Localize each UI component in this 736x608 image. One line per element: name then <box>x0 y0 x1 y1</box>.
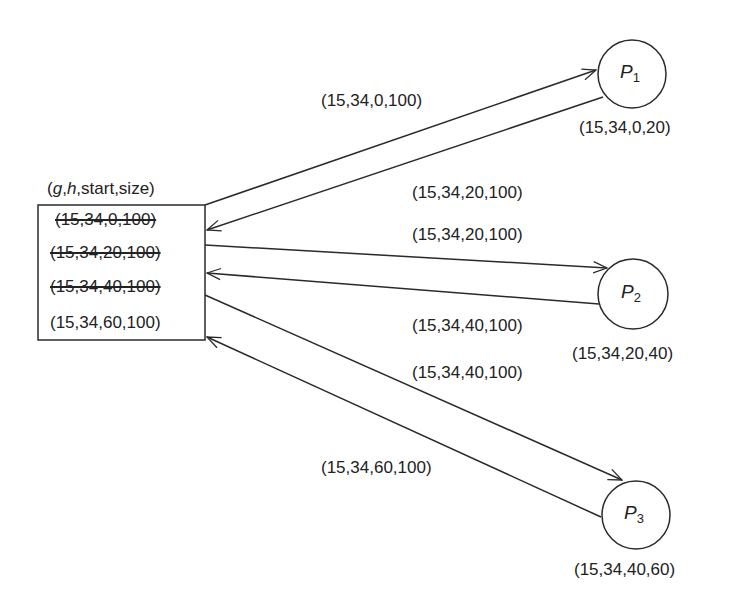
header-rest: ,start,size) <box>76 179 154 198</box>
message-label: (15,34,0,100) <box>321 91 422 111</box>
table-row: (15,34,40,100) <box>50 277 161 297</box>
message-label: (15,34,20,100) <box>412 225 523 245</box>
arrow-p1-to-table <box>207 97 603 230</box>
p1-sub: 1 <box>633 70 640 85</box>
arrow-p2-to-table <box>207 273 599 304</box>
process-p1-state: (15,34,0,20) <box>579 118 671 138</box>
process-p1-label: P1 <box>620 61 640 85</box>
table-row: (15,34,60,100) <box>50 313 161 333</box>
p2-name: P <box>621 281 634 302</box>
p2-sub: 2 <box>634 290 641 305</box>
header-g: g <box>53 179 62 198</box>
table-header: (g,h,start,size) <box>47 179 155 199</box>
table-row: (15,34,20,100) <box>50 243 161 263</box>
process-p3-label: P3 <box>624 502 644 526</box>
message-label: (15,34,40,100) <box>412 316 523 336</box>
process-p2-state: (15,34,20,40) <box>572 344 673 364</box>
p3-name: P <box>624 502 637 523</box>
arrow-table-to-p2 <box>205 245 607 268</box>
header-h: h <box>67 179 76 198</box>
process-p2-label: P2 <box>621 281 641 305</box>
p3-sub: 3 <box>637 511 644 526</box>
message-label: (15,34,40,100) <box>412 363 523 383</box>
arrow-p3-to-table <box>207 337 601 517</box>
process-p3-state: (15,34,40,60) <box>574 560 675 580</box>
message-label: (15,34,20,100) <box>412 183 523 203</box>
message-label: (15,34,60,100) <box>321 458 432 478</box>
p1-name: P <box>620 61 633 82</box>
table-row: (15,34,0,100) <box>55 210 156 230</box>
